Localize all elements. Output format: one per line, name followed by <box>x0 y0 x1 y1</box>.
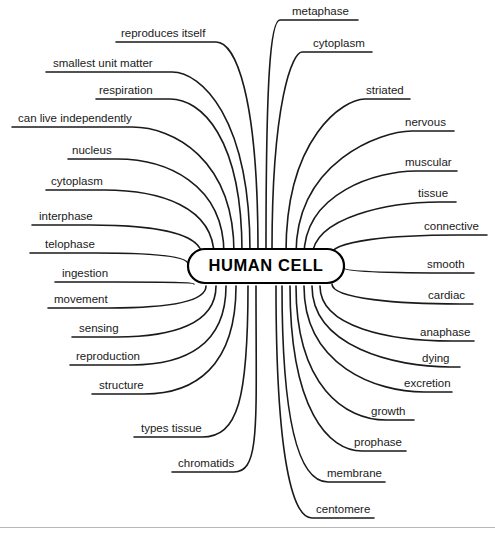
branch-label-cytoplasm-top[interactable]: cytoplasm <box>313 38 365 50</box>
branch-label-telophase[interactable]: telophase <box>45 239 95 251</box>
center-node-layer[interactable]: HUMAN CELL <box>188 249 344 283</box>
branch-label-metaphase[interactable]: metaphase <box>292 6 349 18</box>
branch-label-excretion[interactable]: excretion <box>404 378 451 390</box>
branch-label-structure[interactable]: structure <box>99 380 144 392</box>
branch-label-cardiac[interactable]: cardiac <box>428 290 465 302</box>
page-divider <box>0 527 495 528</box>
branch-line-types-tissue[interactable] <box>134 286 248 437</box>
branch-label-reproduction[interactable]: reproduction <box>76 351 140 363</box>
branch-label-reproduces-itself[interactable]: reproduces itself <box>121 28 205 40</box>
branch-label-membrane[interactable]: membrane <box>327 468 382 480</box>
branch-label-can-live-independently[interactable]: can live independently <box>18 113 132 125</box>
branch-label-prophase[interactable]: prophase <box>354 437 402 449</box>
mindmap-canvas: HUMAN CELL metaphasecytoplasmstriatedner… <box>0 0 495 545</box>
branch-line-connective[interactable] <box>330 235 487 256</box>
branch-label-types-tissue[interactable]: types tissue <box>141 423 202 435</box>
branch-label-chromatids[interactable]: chromatids <box>178 458 234 470</box>
branch-label-cytoplasm-left[interactable]: cytoplasm <box>51 176 103 188</box>
branch-label-interphase[interactable]: interphase <box>39 211 93 223</box>
branch-line-growth[interactable] <box>296 286 414 420</box>
branch-label-muscular[interactable]: muscular <box>405 157 452 169</box>
branch-line-muscular[interactable] <box>304 171 457 256</box>
branch-line-structure[interactable] <box>92 286 236 394</box>
branch-line-prophase[interactable] <box>290 286 406 451</box>
branch-label-connective[interactable]: connective <box>424 221 479 233</box>
branch-label-striated[interactable]: striated <box>366 85 404 97</box>
branch-label-smallest-unit-matter[interactable]: smallest unit matter <box>53 58 153 70</box>
branch-line-metaphase[interactable] <box>266 20 358 250</box>
branch-label-movement[interactable]: movement <box>54 294 108 306</box>
branch-label-sensing[interactable]: sensing <box>79 323 119 335</box>
branch-label-smooth[interactable]: smooth <box>427 259 465 271</box>
branch-label-growth[interactable]: growth <box>371 406 406 418</box>
center-node-label: HUMAN CELL <box>208 256 323 274</box>
branch-line-striated[interactable] <box>286 99 410 252</box>
branch-label-nucleus[interactable]: nucleus <box>72 145 112 157</box>
branch-label-ingestion[interactable]: ingestion <box>62 268 108 280</box>
branch-label-nervous[interactable]: nervous <box>405 117 446 129</box>
branch-line-telophase[interactable] <box>30 253 188 264</box>
branch-label-respiration[interactable]: respiration <box>99 85 153 97</box>
branch-label-anaphase[interactable]: anaphase <box>420 327 471 339</box>
branch-label-centomere[interactable]: centomere <box>316 504 370 516</box>
branch-line-ingestion[interactable] <box>55 282 194 284</box>
branch-label-tissue[interactable]: tissue <box>418 188 448 200</box>
branch-label-dying[interactable]: dying <box>422 353 450 365</box>
